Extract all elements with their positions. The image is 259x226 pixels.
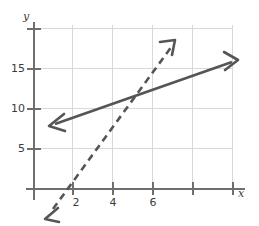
y-axis-label: y bbox=[22, 10, 30, 23]
y-tick-label-15: 15 bbox=[11, 62, 25, 75]
x-axis-label: x bbox=[238, 187, 245, 200]
solid-line-series bbox=[49, 52, 238, 131]
coordinate-plane: 15 10 5 2 4 6 y x bbox=[0, 0, 259, 226]
x-tick-label-2: 2 bbox=[73, 196, 80, 209]
graph-figure: 15 10 5 2 4 6 y x bbox=[0, 0, 259, 226]
y-tick-label-5: 5 bbox=[18, 142, 25, 155]
y-tick-label-10: 10 bbox=[11, 102, 25, 115]
x-tick-label-6: 6 bbox=[150, 196, 157, 209]
x-tick-label-4: 4 bbox=[110, 196, 117, 209]
solid-line-segment bbox=[55, 62, 232, 124]
dashed-line-lower-arrowhead bbox=[45, 208, 59, 222]
vertical-gridlines bbox=[73, 25, 233, 188]
